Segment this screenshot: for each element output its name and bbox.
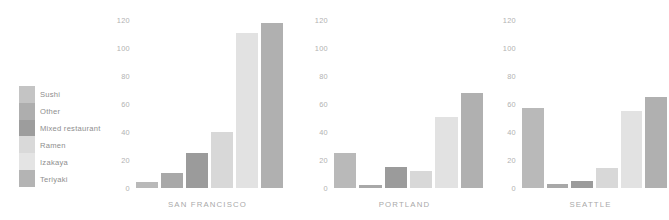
y-axis-tick-label: 120 xyxy=(503,16,516,25)
legend-item-label: Izakaya xyxy=(40,157,68,166)
chart-panel-san-francisco: 120100806040200 SAN FRANCISCO xyxy=(100,0,285,220)
bar[interactable] xyxy=(547,184,569,188)
legend-item-label: Ramen xyxy=(40,140,66,149)
chart-figure: Sushi Other Mixed restaurant Ramen Izaka… xyxy=(0,0,669,220)
y-axis-tick-label: 20 xyxy=(319,156,328,165)
plot-area: 120100806040200 xyxy=(522,13,667,188)
chart-panel-seattle: 120100806040200 SEATTLE xyxy=(488,0,669,220)
y-axis-tick-label: 20 xyxy=(507,156,516,165)
bar[interactable] xyxy=(334,153,356,188)
bar[interactable] xyxy=(261,23,283,188)
bar[interactable] xyxy=(435,117,457,188)
bar[interactable] xyxy=(571,181,593,188)
y-axis-tick-label: 80 xyxy=(121,72,130,81)
legend-item-label: Sushi xyxy=(40,90,60,99)
panel-title: SAN FRANCISCO xyxy=(100,200,285,209)
legend-swatch-icon xyxy=(19,136,35,153)
legend-swatch-icon xyxy=(19,120,35,137)
bar-group xyxy=(522,13,667,188)
y-axis-tick-label: 100 xyxy=(503,44,516,53)
y-axis-tick-label: 0 xyxy=(324,184,328,193)
bar[interactable] xyxy=(596,168,618,188)
y-axis-tick-label: 20 xyxy=(121,156,130,165)
chart-panel-portland: 120100806040200 PORTLAND xyxy=(300,0,485,220)
y-axis-tick-label: 0 xyxy=(512,184,516,193)
bar[interactable] xyxy=(522,108,544,188)
y-axis-tick-label: 40 xyxy=(507,128,516,137)
panel-title: SEATTLE xyxy=(488,200,669,209)
y-axis-tick-label: 60 xyxy=(319,100,328,109)
y-axis-tick-label: 40 xyxy=(121,128,130,137)
legend-swatch-icon xyxy=(19,103,35,120)
bar[interactable] xyxy=(385,167,407,188)
legend-item-label: Mixed restaurant xyxy=(40,124,101,133)
bar[interactable] xyxy=(645,97,667,188)
bar-group xyxy=(334,13,483,188)
bar-group xyxy=(136,13,283,188)
plot-area: 120100806040200 xyxy=(136,13,283,188)
bar[interactable] xyxy=(621,111,643,188)
legend-swatch-icon xyxy=(19,153,35,170)
y-axis-tick-label: 60 xyxy=(507,100,516,109)
y-axis-tick-label: 0 xyxy=(126,184,130,193)
panel-title: PORTLAND xyxy=(300,200,485,209)
legend-swatch-icon xyxy=(19,86,35,103)
bar[interactable] xyxy=(186,153,208,188)
legend-item-label: Teriyaki xyxy=(40,174,68,183)
bar[interactable] xyxy=(236,33,258,188)
legend-item-label: Other xyxy=(40,107,60,116)
legend-swatch-icon xyxy=(19,170,35,187)
bar[interactable] xyxy=(211,132,233,188)
bar[interactable] xyxy=(136,182,158,188)
y-axis-tick-label: 80 xyxy=(319,72,328,81)
y-axis-tick-label: 120 xyxy=(315,16,328,25)
y-axis-tick-label: 60 xyxy=(121,100,130,109)
y-axis-tick-label: 80 xyxy=(507,72,516,81)
bar[interactable] xyxy=(161,173,183,188)
bar[interactable] xyxy=(359,185,381,188)
bar[interactable] xyxy=(461,93,483,188)
y-axis-tick-label: 100 xyxy=(315,44,328,53)
y-axis-tick-label: 100 xyxy=(117,44,130,53)
bar[interactable] xyxy=(410,171,432,188)
plot-area: 120100806040200 xyxy=(334,13,483,188)
y-axis-tick-label: 40 xyxy=(319,128,328,137)
y-axis-tick-label: 120 xyxy=(117,16,130,25)
